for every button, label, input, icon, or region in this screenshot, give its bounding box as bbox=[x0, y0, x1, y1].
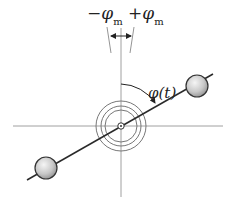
lower-ball bbox=[35, 157, 57, 179]
minus-phi-m-label: −φm bbox=[87, 3, 123, 27]
plus-phi-m-label: +φm bbox=[128, 3, 164, 27]
pendulum-diagram: −φm +φm φ(t) bbox=[0, 0, 233, 203]
upper-ball bbox=[186, 75, 208, 97]
pivot-inner bbox=[120, 125, 122, 127]
minus-amplitude-line bbox=[107, 27, 111, 53]
phi-t-label: φ(t) bbox=[148, 84, 176, 102]
plus-amplitude-line bbox=[130, 27, 134, 53]
